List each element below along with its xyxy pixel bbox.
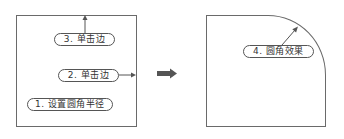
step-2-label: 2. 单击边	[58, 69, 119, 82]
transition-arrow-icon	[157, 69, 177, 79]
step-3-label: 3. 单击边	[54, 33, 115, 46]
step-4-label: 4. 圆角效果	[243, 45, 314, 58]
step-1-label: 1. 设置圆角半径	[27, 98, 113, 111]
right-rounded-corner-shape	[206, 15, 326, 127]
